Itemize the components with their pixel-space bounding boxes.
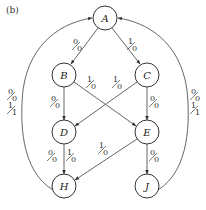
svg-text:C: C xyxy=(143,70,151,81)
edge-labels: 0 0 1 0 0 0 1 0 1 0 0 xyxy=(7,37,200,164)
svg-text:0: 0 xyxy=(117,82,122,91)
svg-text:0: 0 xyxy=(132,44,137,53)
label-b-e: 1 0 xyxy=(86,75,96,91)
state-diagram: (b) 0 0 1 0 0 0 xyxy=(0,0,206,210)
svg-text:E: E xyxy=(142,127,151,138)
nodes: A B C D E H J xyxy=(52,6,159,198)
node-h: H xyxy=(52,174,76,198)
label-d-h-1: 1 0 xyxy=(66,148,76,164)
svg-text:1: 1 xyxy=(195,108,200,117)
figure-caption: (b) xyxy=(6,5,19,15)
edge-c-d xyxy=(75,82,137,126)
label-e-h: 1 0 xyxy=(98,141,108,157)
label-a-c: 1 0 xyxy=(127,37,137,53)
node-j: J xyxy=(135,174,159,198)
svg-text:B: B xyxy=(59,70,67,81)
label-c-d: 1 0 xyxy=(112,75,122,91)
label-d-h-0: 0 0 xyxy=(47,148,57,164)
svg-text:0: 0 xyxy=(71,155,76,164)
node-a: A xyxy=(93,6,117,30)
svg-text:D: D xyxy=(59,127,68,138)
label-e-j: 0 0 xyxy=(149,148,159,164)
label-c-e: 0 0 xyxy=(149,94,159,110)
node-e: E xyxy=(135,120,159,144)
edge-b-e xyxy=(74,82,136,126)
svg-text:0: 0 xyxy=(55,101,60,110)
label-j-a-1: 1 1 xyxy=(190,101,200,117)
label-a-b: 0 0 xyxy=(72,37,82,53)
label-h-a-1: 1 1 xyxy=(7,101,17,117)
node-c: C xyxy=(135,63,159,87)
edge-a-b xyxy=(71,28,98,64)
node-d: D xyxy=(52,120,76,144)
svg-text:0: 0 xyxy=(154,101,159,110)
svg-text:0: 0 xyxy=(52,155,57,164)
svg-text:0: 0 xyxy=(77,44,82,53)
svg-text:0: 0 xyxy=(91,82,96,91)
svg-text:A: A xyxy=(100,13,108,24)
node-b: B xyxy=(52,63,76,87)
svg-text:0: 0 xyxy=(154,155,159,164)
edge-e-h xyxy=(75,139,137,180)
svg-text:J: J xyxy=(143,181,150,192)
svg-text:H: H xyxy=(59,181,69,192)
svg-text:0: 0 xyxy=(103,148,108,157)
svg-text:1: 1 xyxy=(12,108,17,117)
edges xyxy=(22,18,188,190)
label-b-d: 0 0 xyxy=(50,94,60,110)
